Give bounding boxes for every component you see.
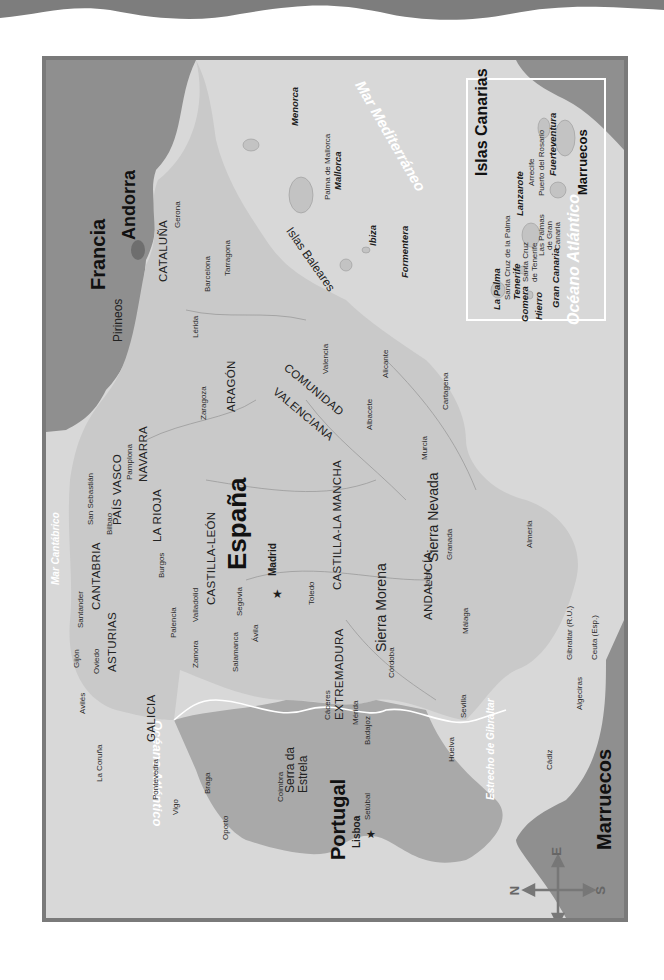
inset-city-santa-cruz-tenerife-1: Santa Cruz bbox=[522, 242, 530, 282]
region-navarra: NAVARRA bbox=[138, 426, 150, 482]
island-formentera: Formentera bbox=[400, 226, 410, 278]
label-estrecho-gibraltar: Estrecho de Gibraltar bbox=[486, 698, 496, 800]
mtn-sierra-morena: Sierra Morena bbox=[374, 563, 388, 652]
city-san-sebastian: San Sebastián bbox=[87, 473, 95, 525]
island-la-palma: La Palma bbox=[492, 268, 502, 310]
city-zaragoza: Zaragoza bbox=[200, 386, 208, 420]
city-malaga: Málaga bbox=[462, 608, 470, 634]
compass-s: S bbox=[593, 886, 608, 895]
region-cataluna: CATALUÑA bbox=[158, 220, 170, 282]
city-pontevedra: Pontevedra bbox=[152, 759, 160, 800]
city-setubal: Setúbal bbox=[364, 793, 372, 820]
region-la-rioja: LA RIOJA bbox=[152, 489, 164, 542]
city-valladolid: Valladolid bbox=[192, 588, 200, 622]
madrid-star-icon: ★ bbox=[272, 588, 283, 600]
city-coimbra: Coimbra bbox=[277, 772, 285, 802]
lisboa-star-icon: ★ bbox=[366, 829, 376, 840]
city-oporto: Oporto bbox=[222, 816, 230, 840]
inset-city-puerto-rosario: Puerto del Rosario bbox=[538, 130, 546, 196]
region-extremadura: EXTREMADURA bbox=[334, 629, 346, 720]
city-sevilla: Sevilla bbox=[460, 694, 468, 718]
top-banner-wave bbox=[0, 0, 664, 30]
city-murcia: Murcia bbox=[421, 436, 429, 460]
label-oceano-atlantico-inset: Océano Atlántico bbox=[566, 194, 582, 325]
city-oviedo: Oviedo bbox=[93, 649, 101, 674]
capital-lisboa: Lisboa bbox=[352, 816, 362, 848]
region-galicia: GALICIA bbox=[146, 695, 158, 742]
city-gerona: Gerona bbox=[174, 201, 182, 228]
region-cantabria: CANTABRIA bbox=[91, 542, 103, 610]
capital-madrid: Madrid bbox=[268, 543, 278, 576]
city-cordoba: Córdoba bbox=[388, 647, 396, 678]
city-aviles: Avilés bbox=[79, 693, 87, 714]
inset-city-las-palmas-3: Canaria bbox=[554, 222, 562, 250]
city-lerida: Lérida bbox=[192, 316, 200, 338]
menorca-island bbox=[243, 139, 259, 151]
city-almeria: Almería bbox=[526, 520, 534, 548]
map-frame: Francia Andorra España Portugal Marrueco… bbox=[42, 56, 628, 922]
mtn-sierra-nevada: Sierra Nevada bbox=[426, 473, 440, 563]
compass-e: E bbox=[549, 847, 564, 856]
city-ceuta: Ceuta (Esp.) bbox=[591, 615, 599, 660]
island-fuerteventura: Fuerteventura bbox=[548, 113, 558, 176]
city-burgos: Burgos bbox=[158, 553, 166, 578]
island-mallorca: Mallorca bbox=[333, 151, 343, 190]
mtn-serra-estrela-2: Estrela bbox=[297, 756, 309, 793]
island-gran-canaria: Gran Canaria bbox=[551, 248, 561, 308]
city-badajoz: Badajoz bbox=[364, 716, 372, 745]
island-lanzarote: Lanzarote bbox=[515, 171, 525, 216]
compass-rose: E O N S bbox=[520, 850, 600, 922]
city-braga: Braga bbox=[204, 773, 212, 794]
label-marruecos-inset: Marruecos bbox=[576, 129, 589, 195]
city-avila: Ávila bbox=[252, 625, 260, 642]
city-salamanca: Salamanca bbox=[232, 632, 240, 672]
compass-n: N bbox=[507, 886, 522, 895]
city-zamora: Zamora bbox=[192, 640, 200, 668]
city-toledo: Toledo bbox=[308, 581, 316, 605]
formentera-island bbox=[362, 247, 370, 253]
region-castilla-la-mancha: CASTILLA-LA MANCHA bbox=[332, 460, 344, 590]
city-alicante: Alicante bbox=[382, 350, 390, 378]
city-merida: Mérida bbox=[352, 701, 360, 725]
city-cadiz: Cádiz bbox=[546, 750, 554, 770]
label-francia: Francia bbox=[88, 219, 108, 290]
region-castilla-leon: CASTILLA-LEÓN bbox=[206, 512, 218, 605]
label-mar-cantabrico: Mar Cantábrico bbox=[51, 512, 61, 585]
mtn-serra-estrela-1: Serra da bbox=[284, 747, 296, 793]
city-gijon: Gijón bbox=[73, 649, 81, 668]
label-portugal: Portugal bbox=[328, 779, 348, 860]
label-andorra: Andorra bbox=[120, 170, 138, 240]
city-palencia: Palencia bbox=[170, 607, 178, 638]
city-palma: Palma de Mallorca bbox=[324, 134, 332, 200]
compass-arrows-icon bbox=[520, 850, 600, 922]
mallorca-island bbox=[289, 177, 313, 213]
city-valencia: Valencia bbox=[322, 344, 330, 374]
city-segovia: Segovia bbox=[236, 587, 244, 616]
andorra-land bbox=[131, 240, 145, 260]
city-gibraltar: Gibraltar (R.U.) bbox=[566, 606, 574, 660]
inset-title: Islas Canarias bbox=[474, 68, 490, 176]
city-granada: Granada bbox=[446, 529, 454, 560]
island-hierro: Hierro bbox=[534, 292, 544, 320]
mtn-pirineos: Pirineos bbox=[112, 299, 124, 342]
city-la-coruna: La Coruña bbox=[96, 745, 104, 782]
city-tarragona: Tarragona bbox=[224, 240, 232, 276]
label-marruecos: Marruecos bbox=[594, 749, 614, 850]
label-espana: España bbox=[224, 478, 250, 571]
city-caceres: Cáceres bbox=[324, 690, 332, 720]
city-algeciras: Algeciras bbox=[576, 677, 584, 710]
island-menorca: Menorca bbox=[290, 87, 300, 126]
island-gomera: Gomera bbox=[520, 286, 530, 322]
ibiza-island bbox=[340, 259, 352, 271]
city-vigo: Vigo bbox=[172, 799, 180, 815]
inset-city-arrecife: Arrecife bbox=[528, 158, 536, 186]
island-ibiza: Ibiza bbox=[368, 225, 378, 246]
city-jaen: Jaén bbox=[424, 571, 432, 588]
region-aragon: ARAGÓN bbox=[226, 360, 238, 412]
city-albacete: Albacete bbox=[366, 399, 374, 430]
city-pamplona: Pamplona bbox=[126, 444, 134, 480]
city-barcelona: Barcelona bbox=[204, 256, 212, 292]
city-bilbao: Bilbao bbox=[106, 513, 114, 535]
city-cartagena: Cartagena bbox=[442, 373, 450, 410]
city-huelva: Huelva bbox=[448, 737, 456, 762]
